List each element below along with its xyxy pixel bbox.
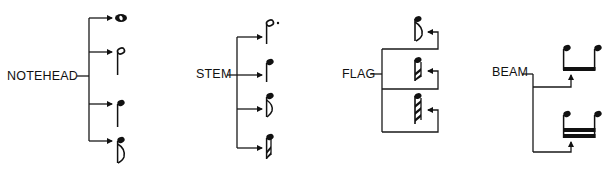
thirty-second-flag-icon	[414, 92, 423, 124]
stem-quarter-note-icon	[265, 58, 274, 82]
flag-connector	[370, 32, 438, 132]
stem-connector	[227, 37, 262, 148]
dotted-half-note-icon	[266, 19, 280, 44]
music-notation-diagram	[0, 0, 610, 171]
sixteenth-flag-icon	[414, 56, 423, 81]
half-note-icon	[117, 47, 126, 75]
quarter-note-icon	[116, 99, 125, 127]
eighth-flag-icon	[414, 15, 423, 41]
double-beam-icon	[562, 110, 602, 138]
whole-note-icon	[115, 14, 127, 22]
sixteenth-note-icon	[265, 133, 274, 159]
single-beam-icon	[562, 44, 602, 71]
stem-eighth-note-icon	[265, 92, 274, 117]
beam-connector	[522, 74, 571, 152]
notehead-connector	[77, 18, 112, 141]
eighth-note-icon	[116, 136, 125, 163]
